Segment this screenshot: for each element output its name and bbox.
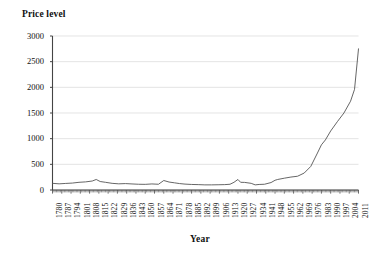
x-tick-label: 1955 xyxy=(288,203,296,218)
x-tick-label: 1920 xyxy=(241,203,249,218)
x-tick-label: 1983 xyxy=(325,203,333,218)
x-tick-label: 1808 xyxy=(93,203,101,218)
x-tick-label: 2004 xyxy=(352,203,360,218)
x-tick-label: 1948 xyxy=(278,203,286,218)
y-tick-label: 1500 xyxy=(0,109,56,118)
x-tick-label: 1829 xyxy=(121,203,129,218)
x-axis-title: Year xyxy=(0,234,376,244)
x-tick-label: 1822 xyxy=(111,203,119,218)
x-tick-label: 1962 xyxy=(297,203,305,218)
chart-figure: Price level 050010001500200025003000 178… xyxy=(0,0,376,254)
x-tick-label: 1927 xyxy=(250,203,258,218)
x-tick-label: 1871 xyxy=(176,203,184,218)
x-tick-label: 1787 xyxy=(65,203,73,218)
x-tick-label: 1906 xyxy=(223,203,231,218)
x-tick-label: 1990 xyxy=(334,203,342,218)
y-tick-label: 0 xyxy=(0,186,56,195)
y-tick-label: 3000 xyxy=(0,32,56,41)
x-tick-label: 1969 xyxy=(306,203,314,218)
gridlines-group xyxy=(53,36,359,190)
x-tick-label: 1857 xyxy=(158,203,166,218)
x-tick-label: 2011 xyxy=(362,203,370,218)
x-tick-label: 1801 xyxy=(84,203,92,218)
x-tick-label: 1843 xyxy=(139,203,147,218)
x-tick-label: 1885 xyxy=(195,203,203,218)
y-tick-label: 2500 xyxy=(0,57,56,66)
x-tick-label: 1850 xyxy=(148,203,156,218)
x-tick-label: 1892 xyxy=(204,203,212,218)
x-tick-label: 1836 xyxy=(130,203,138,218)
y-tick-label: 1000 xyxy=(0,134,56,143)
x-tick-label: 1878 xyxy=(186,203,194,218)
y-tick-label: 2000 xyxy=(0,83,56,92)
x-tick-label: 1913 xyxy=(232,203,240,218)
x-tick-label: 1976 xyxy=(315,203,323,218)
y-tick-label: 500 xyxy=(0,160,56,169)
x-tick-label: 1780 xyxy=(56,203,64,218)
x-tick-label: 1899 xyxy=(213,203,221,218)
x-tick-label: 1941 xyxy=(269,203,277,218)
x-tick-label: 1934 xyxy=(260,203,268,218)
x-axis-title-text: Year xyxy=(166,234,210,244)
x-tick-label: 1794 xyxy=(74,203,82,218)
x-tick-label: 1864 xyxy=(167,203,175,218)
x-tick-label: 1997 xyxy=(343,203,351,218)
x-tick-label: 1815 xyxy=(102,203,110,218)
